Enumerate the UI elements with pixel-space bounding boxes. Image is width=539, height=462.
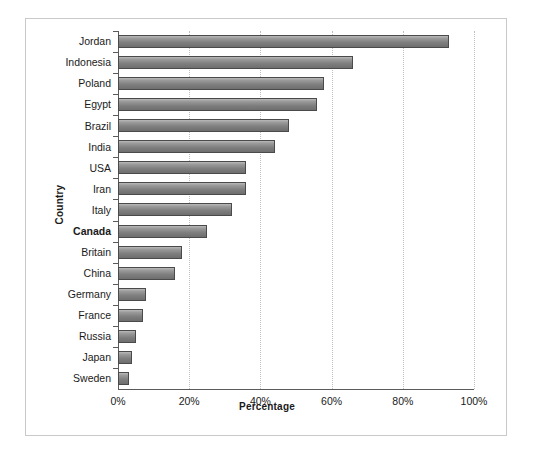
y-axis-tick [113, 284, 118, 285]
bar[interactable] [118, 35, 449, 48]
y-axis-category-label: Iran [93, 184, 111, 195]
y-axis-category-label: Brazil [85, 121, 111, 132]
bar-row: Indonesia [118, 52, 474, 73]
y-axis-tick [113, 199, 118, 200]
bar-row: Sweden [118, 368, 474, 389]
bar-row: Jordan [118, 31, 474, 52]
bar-row: France [118, 305, 474, 326]
bar[interactable] [118, 309, 143, 322]
bar[interactable] [118, 330, 136, 343]
bar-row: USA [118, 157, 474, 178]
y-axis-tick [113, 136, 118, 137]
y-axis-tick [113, 347, 118, 348]
y-axis-tick [113, 157, 118, 158]
bar[interactable] [118, 161, 246, 174]
bar-row: Brazil [118, 115, 474, 136]
y-axis-category-label: Egypt [84, 99, 111, 110]
bar[interactable] [118, 372, 129, 385]
y-axis-tick [113, 178, 118, 179]
y-axis-category-label: Sweden [73, 373, 111, 384]
bar[interactable] [118, 246, 182, 259]
x-tick-label: 40% [250, 395, 271, 407]
y-axis-category-label: Britain [81, 247, 111, 258]
y-axis-category-label: France [78, 310, 111, 321]
bar[interactable] [118, 225, 207, 238]
y-axis-tick [113, 94, 118, 95]
y-axis-tick [113, 368, 118, 369]
y-axis-category-label: USA [89, 163, 111, 174]
x-tick-label: 0% [110, 395, 125, 407]
y-axis-tick [113, 263, 118, 264]
bar-row: Russia [118, 326, 474, 347]
plot-area: JordanIndonesiaPolandEgyptBrazilIndiaUSA… [118, 31, 474, 389]
bar-row: Germany [118, 284, 474, 305]
bar[interactable] [118, 119, 289, 132]
x-tick-label: 60% [321, 395, 342, 407]
bar[interactable] [118, 203, 232, 216]
bar[interactable] [118, 140, 275, 153]
chart-frame: Country Percentage JordanIndonesiaPoland… [25, 18, 507, 436]
y-axis-category-label: Japan [82, 352, 111, 363]
y-axis-tick [113, 221, 118, 222]
y-axis-category-label: China [84, 268, 111, 279]
x-axis-line [118, 389, 474, 390]
bar[interactable] [118, 56, 353, 69]
y-axis-tick [113, 115, 118, 116]
y-axis-category-label: Jordan [79, 36, 111, 47]
bar[interactable] [118, 351, 132, 364]
y-axis-tick [113, 52, 118, 53]
x-tick-label: 20% [179, 395, 200, 407]
bar-row: Britain [118, 242, 474, 263]
y-axis-category-label: Canada [73, 226, 111, 237]
bar-row: China [118, 263, 474, 284]
y-axis-category-label: Poland [78, 78, 111, 89]
bar[interactable] [118, 77, 324, 90]
bar[interactable] [118, 182, 246, 195]
y-axis-tick [113, 242, 118, 243]
bar-row: Italy [118, 199, 474, 220]
y-axis-tick [113, 31, 118, 32]
bar[interactable] [118, 288, 146, 301]
bar-row: Japan [118, 347, 474, 368]
bar-row: Egypt [118, 94, 474, 115]
y-axis-category-label: Germany [68, 289, 111, 300]
y-axis-category-label: Indonesia [65, 57, 111, 68]
bar-row: India [118, 136, 474, 157]
gridline-100pct [474, 31, 475, 389]
y-axis-title: Country [54, 160, 65, 250]
bar-row: Iran [118, 178, 474, 199]
bar-row: Canada [118, 221, 474, 242]
bar[interactable] [118, 267, 175, 280]
y-axis-category-label: India [88, 142, 111, 153]
y-axis-tick [113, 305, 118, 306]
bar-row: Poland [118, 73, 474, 94]
y-axis-tick [113, 326, 118, 327]
y-axis-category-label: Russia [79, 331, 111, 342]
x-tick-label: 80% [392, 395, 413, 407]
y-axis-category-label: Italy [92, 205, 111, 216]
x-tick-label: 100% [461, 395, 488, 407]
y-axis-tick [113, 73, 118, 74]
bar[interactable] [118, 98, 317, 111]
